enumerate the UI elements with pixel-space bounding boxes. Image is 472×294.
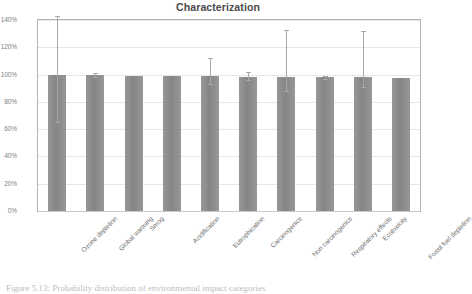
error-bar-cap-upper <box>246 72 251 73</box>
bar <box>354 77 372 211</box>
bar-shading <box>201 76 219 211</box>
error-bar-cap-lower <box>208 84 213 85</box>
plot-area <box>37 19 421 212</box>
bar-shading <box>163 76 181 211</box>
bar <box>316 77 334 211</box>
error-bar-line <box>248 72 249 80</box>
bar <box>163 76 181 211</box>
bar-shading <box>277 77 295 211</box>
error-bar-line <box>210 58 211 84</box>
bar-shading <box>392 78 410 211</box>
x-axis-tick-ozone-depletion: Ozone depletion <box>80 215 118 253</box>
x-axis-tick-eutrophication: Eutrophication <box>231 215 265 249</box>
bar-shading <box>125 76 143 211</box>
bar <box>277 77 295 211</box>
bar-shading <box>86 75 104 211</box>
error-bar-cap-lower <box>361 87 366 88</box>
y-axis-tick-40: 40% <box>0 152 17 159</box>
bar <box>125 76 143 211</box>
bar-shading <box>316 77 334 211</box>
y-axis-tick-60: 60% <box>0 125 17 132</box>
y-axis-tick-80: 80% <box>0 97 17 104</box>
bar-shading <box>354 77 372 211</box>
y-axis-tick-120: 120% <box>0 43 17 50</box>
error-bar-cap-lower <box>93 77 98 78</box>
y-axis-tick-0: 0% <box>0 207 17 214</box>
error-bar-cap-lower <box>284 91 289 92</box>
error-bar-line <box>57 16 58 122</box>
error-bar-cap-upper <box>55 16 60 17</box>
error-bar-cap-upper <box>361 31 366 32</box>
gridline <box>38 20 420 21</box>
y-axis-tick-100: 100% <box>0 70 17 77</box>
gridline <box>38 211 420 212</box>
x-axis-tick-acidification: Acidification <box>191 215 220 244</box>
figure-caption: Figure 5.13: Probability distribution of… <box>6 283 430 294</box>
x-axis-tick-carcinogenics: Carcinogenics <box>269 215 303 249</box>
error-bar-line <box>286 30 287 91</box>
error-bar-cap-upper <box>208 58 213 59</box>
y-axis-tick-140: 140% <box>0 16 17 23</box>
bar <box>201 76 219 211</box>
chart-card: Characterization 0%20%40%60%80%100%120%1… <box>0 0 436 276</box>
error-bar-cap-upper <box>284 30 289 31</box>
error-bar-cap-lower <box>55 122 60 123</box>
x-axis-tick-fossil-fuel-depletion: Fossil fuel depletion <box>427 215 472 260</box>
error-bar-line <box>363 31 364 87</box>
chart-title: Characterization <box>0 1 436 13</box>
bar <box>239 77 257 211</box>
error-bar-cap-lower <box>246 80 251 81</box>
x-axis-tick-global-warming: Global warming <box>118 215 155 252</box>
bar-shading <box>239 77 257 211</box>
bar <box>392 78 410 211</box>
y-axis-tick-20: 20% <box>0 179 17 186</box>
error-bar-cap-lower <box>323 79 328 80</box>
bar <box>86 75 104 211</box>
error-bar-cap-upper <box>323 76 328 77</box>
error-bar-cap-upper <box>93 73 98 74</box>
x-axis-tick-non-carcinogenics: Non carcinogenics <box>311 215 354 258</box>
